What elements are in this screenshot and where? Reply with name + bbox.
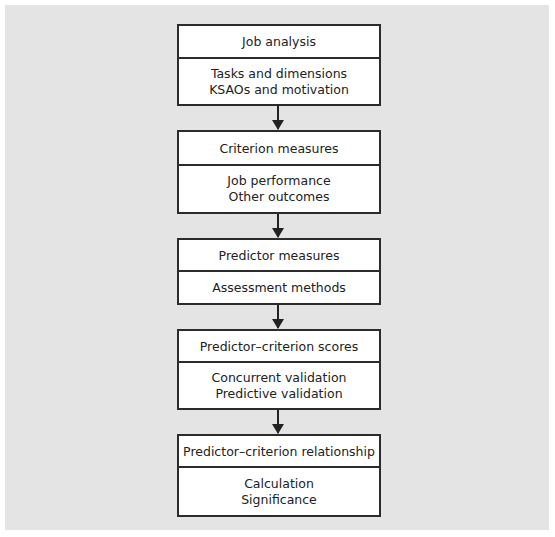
- step-title: Predictor measures: [179, 240, 379, 272]
- step-details: Concurrent validation Predictive validat…: [179, 363, 379, 408]
- arrow-down-icon: [277, 305, 279, 328]
- step-job-analysis: Job analysis Tasks and dimensions KSAOs …: [177, 24, 381, 106]
- step-predictor-measures: Predictor measures Assessment methods: [177, 238, 381, 305]
- arrow-down-icon: [277, 410, 279, 433]
- detail-line: Other outcomes: [229, 189, 330, 205]
- detail-line: Predictive validation: [215, 386, 342, 402]
- detail-line: Tasks and dimensions: [211, 66, 347, 82]
- detail-line: Assessment methods: [212, 280, 346, 296]
- step-predictor-criterion-relationship: Predictor–criterion relationship Calcula…: [177, 434, 381, 517]
- step-title: Job analysis: [179, 26, 379, 59]
- step-details: Job performance Other outcomes: [179, 166, 379, 212]
- arrow-down-icon: [277, 214, 279, 237]
- detail-line: Calculation: [244, 476, 314, 492]
- step-title: Predictor–criterion relationship: [179, 436, 379, 468]
- step-predictor-criterion-scores: Predictor–criterion scores Concurrent va…: [177, 329, 381, 410]
- detail-line: KSAOs and motivation: [209, 82, 349, 98]
- arrow-down-icon: [277, 105, 279, 129]
- step-title: Predictor–criterion scores: [179, 331, 379, 363]
- step-details: Tasks and dimensions KSAOs and motivatio…: [179, 59, 379, 104]
- detail-line: Significance: [241, 492, 317, 508]
- step-details: Assessment methods: [179, 272, 379, 303]
- detail-line: Concurrent validation: [212, 370, 347, 386]
- step-criterion-measures: Criterion measures Job performance Other…: [177, 130, 381, 214]
- step-title: Criterion measures: [179, 132, 379, 166]
- detail-line: Job performance: [227, 173, 330, 189]
- step-details: Calculation Significance: [179, 468, 379, 515]
